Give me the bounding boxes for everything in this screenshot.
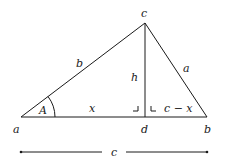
dimension-label-c: c [111,146,117,159]
vertex-label-a: a [13,123,20,136]
right-angle-marker-right [151,106,156,111]
side-label-b: b [76,57,83,70]
vertex-label-c: c [141,7,147,20]
triangle-diagram: c a d b b a h x c − x A c [0,0,227,161]
segment-label-x: x [89,102,96,115]
dimension-end-right-dot [206,151,209,154]
angle-label-A: A [38,104,47,117]
side-b [21,23,145,117]
vertex-label-b: b [204,123,211,136]
altitude-label-h: h [131,71,138,84]
dimension-end-left-dot [20,151,23,154]
segment-label-c-minus-x: c − x [164,102,193,115]
right-angle-marker-left [133,106,138,111]
side-label-a: a [183,62,190,75]
angle-a-arc [48,97,55,118]
vertex-label-d: d [141,123,148,136]
